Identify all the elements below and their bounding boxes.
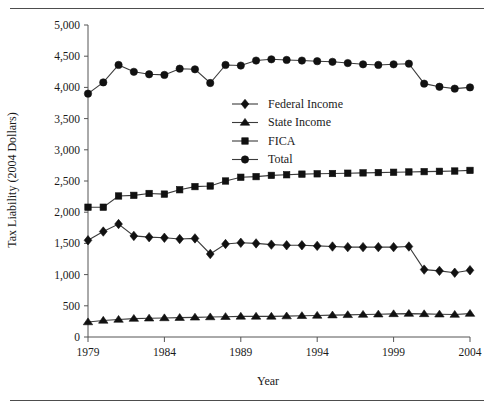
data-point-circle <box>115 61 122 68</box>
data-point-diamond <box>99 227 107 236</box>
data-point-diamond <box>436 266 444 275</box>
data-point-circle <box>359 61 366 68</box>
data-point-square <box>390 169 396 175</box>
data-point-circle <box>161 71 168 78</box>
data-point-circle <box>298 57 305 64</box>
data-point-circle <box>390 61 397 68</box>
data-point-circle <box>191 66 198 73</box>
data-point-diamond <box>313 241 321 250</box>
data-point-triangle <box>175 314 184 321</box>
legend-item-state-income[interactable]: State Income <box>232 115 331 129</box>
data-point-triangle <box>267 312 276 319</box>
data-point-square <box>242 138 248 144</box>
x-axis-title: Year <box>257 374 279 388</box>
data-point-diamond <box>390 242 398 251</box>
data-point-square <box>452 168 458 174</box>
data-point-triangle <box>358 310 367 317</box>
data-point-circle <box>207 79 214 86</box>
x-tick-label: 1989 <box>229 346 252 358</box>
data-point-square <box>238 174 244 180</box>
series-federal-income <box>84 219 474 277</box>
series-state-income <box>83 310 474 325</box>
y-axis: 05001,0001,5002,0002,5003,0003,5004,0004… <box>54 19 88 343</box>
legend-item-fica[interactable]: FICA <box>232 134 296 148</box>
data-point-square <box>345 170 351 176</box>
data-point-triangle <box>206 313 215 320</box>
legend-label: Total <box>268 152 293 166</box>
data-point-triangle <box>190 313 199 320</box>
data-point-diamond <box>283 241 291 250</box>
data-point-circle <box>329 58 336 65</box>
y-tick-label: 500 <box>63 300 81 312</box>
x-tick-label: 2004 <box>459 346 482 358</box>
x-axis: 197919841989199419992004 <box>77 337 482 358</box>
data-point-circle <box>436 83 443 90</box>
data-point-square <box>207 183 213 189</box>
data-point-square <box>406 169 412 175</box>
data-point-triangle <box>419 310 428 317</box>
data-point-triangle <box>297 312 306 319</box>
y-tick-label: 4,000 <box>54 81 80 94</box>
data-point-circle <box>451 85 458 92</box>
data-point-circle <box>466 84 473 91</box>
data-point-diamond <box>344 242 352 251</box>
data-point-triangle <box>343 311 352 318</box>
data-point-square <box>467 167 473 173</box>
data-point-diamond <box>222 239 230 248</box>
data-point-triangle <box>389 310 398 317</box>
legend-label: State Income <box>268 115 331 129</box>
x-tick-label: 1994 <box>306 346 329 358</box>
data-point-triangle <box>465 310 474 317</box>
data-point-circle <box>222 61 229 68</box>
data-point-circle <box>237 62 244 69</box>
data-point-square <box>192 183 198 189</box>
data-point-square <box>253 173 259 179</box>
data-point-triangle <box>221 313 230 320</box>
data-point-square <box>222 178 228 184</box>
y-tick-label: 4,500 <box>54 50 80 63</box>
legend-label: FICA <box>268 134 296 148</box>
data-point-square <box>360 170 366 176</box>
data-point-circle <box>375 61 382 68</box>
data-point-diamond <box>115 219 123 228</box>
data-point-triangle <box>312 311 321 318</box>
data-point-square <box>176 187 182 193</box>
data-point-diamond <box>359 242 367 251</box>
data-point-diamond <box>252 239 260 248</box>
data-point-circle <box>344 59 351 66</box>
x-tick-label: 1984 <box>153 346 176 358</box>
data-point-diamond <box>130 231 138 240</box>
legend-item-federal-income[interactable]: Federal Income <box>232 97 343 111</box>
data-point-diamond <box>176 234 184 243</box>
series-total <box>84 56 473 98</box>
y-tick-label: 0 <box>74 331 80 343</box>
y-tick-label: 1,000 <box>54 269 80 282</box>
data-point-circle <box>405 60 412 67</box>
data-point-triangle <box>374 310 383 317</box>
data-point-circle <box>314 58 321 65</box>
data-point-triangle <box>251 312 260 319</box>
data-point-square <box>131 192 137 198</box>
data-point-circle <box>283 56 290 63</box>
x-tick-label: 1979 <box>77 346 100 358</box>
data-point-square <box>299 171 305 177</box>
data-point-circle <box>100 79 107 86</box>
data-point-square <box>283 172 289 178</box>
y-axis-title: Tax Liability (2004 Dollars) <box>5 112 19 247</box>
legend-item-total[interactable]: Total <box>232 152 293 166</box>
data-point-diamond <box>298 241 306 250</box>
data-point-circle <box>420 80 427 87</box>
y-tick-label: 1,500 <box>54 237 80 250</box>
data-point-circle <box>268 56 275 63</box>
data-point-diamond <box>145 232 153 241</box>
y-tick-label: 3,000 <box>54 144 80 157</box>
line-chart: 05001,0001,5002,0002,5003,0003,5004,0004… <box>0 0 494 409</box>
y-tick-label: 2,000 <box>54 206 80 219</box>
data-point-triangle <box>435 310 444 317</box>
data-point-circle <box>84 90 91 97</box>
data-point-square <box>161 191 167 197</box>
data-point-diamond <box>161 233 169 242</box>
data-point-diamond <box>374 242 382 251</box>
data-point-square <box>115 193 121 199</box>
data-point-triangle <box>282 312 291 319</box>
